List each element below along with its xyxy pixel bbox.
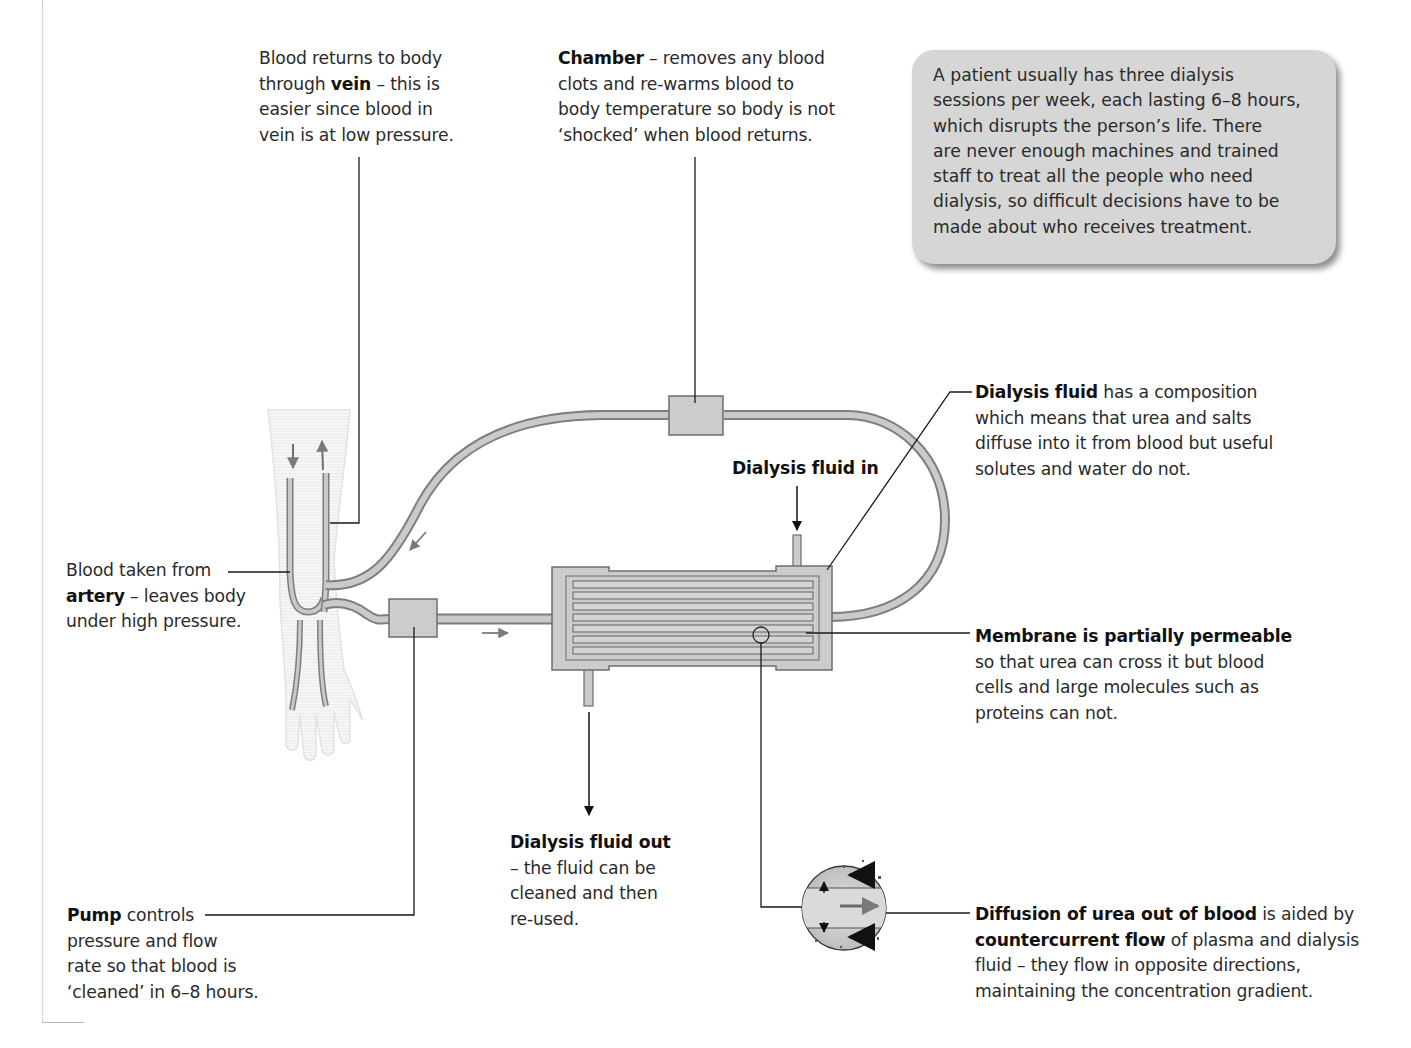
- chamber-label: Chamber – removes any blood clots and re…: [558, 46, 835, 148]
- dialyser: [552, 535, 832, 706]
- dialysis-fluid-label: Dialysis fluid has a composition which m…: [975, 380, 1273, 482]
- chamber-box: [669, 396, 723, 435]
- artery-label: Blood taken from artery – leaves body un…: [66, 558, 246, 635]
- vein-label: Blood returns to body through vein – thi…: [259, 46, 454, 148]
- arrow-icon: [322, 441, 323, 470]
- fluid-out-label: Dialysis fluid out – the fluid can be cl…: [510, 830, 671, 932]
- pump-box: [389, 599, 437, 637]
- arrow-icon: [410, 532, 426, 550]
- magnified-view-circle: [800, 860, 890, 950]
- pump-label: Pump controls pressure and flow rate so …: [67, 903, 259, 1005]
- membrane-label: Membrane is partially permeable so that …: [975, 624, 1292, 726]
- fluid-in-label: Dialysis fluid in: [732, 456, 879, 482]
- diffusion-label: Diffusion of urea out of blood is aided …: [975, 902, 1359, 1004]
- info-note-text: A patient usually has three dialysis ses…: [933, 63, 1333, 240]
